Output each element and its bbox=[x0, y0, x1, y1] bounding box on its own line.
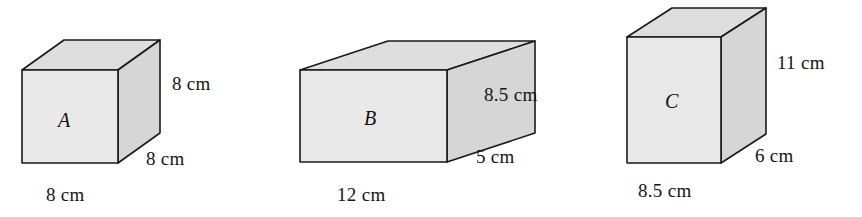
box-c-height-label: 11 cm bbox=[777, 53, 825, 72]
box-a-letter: A bbox=[58, 110, 70, 130]
box-b-depth-label: 5 cm bbox=[476, 147, 515, 166]
prisms-drawing bbox=[0, 0, 862, 217]
box-c-letter: C bbox=[665, 91, 678, 111]
box-a bbox=[22, 40, 160, 163]
box-b-width-label: 12 cm bbox=[337, 185, 385, 204]
box-c-width-label: 8.5 cm bbox=[638, 181, 692, 200]
box-c bbox=[627, 8, 766, 163]
box-a-depth-label: 8 cm bbox=[146, 149, 185, 168]
box-a-height-label: 8 cm bbox=[172, 74, 211, 93]
box-b-letter: B bbox=[364, 108, 376, 128]
figure-canvas: A8 cm8 cm8 cmB8.5 cm5 cm12 cmC11 cm6 cm8… bbox=[0, 0, 862, 217]
box-a-width-label: 8 cm bbox=[46, 185, 85, 204]
box-c-depth-label: 6 cm bbox=[755, 146, 794, 165]
box-b-height-label: 8.5 cm bbox=[484, 85, 538, 104]
